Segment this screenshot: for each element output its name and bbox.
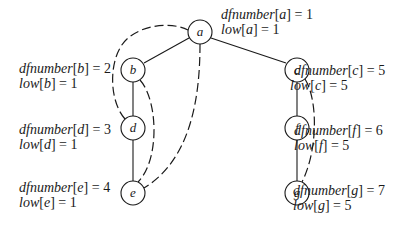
annotation-g: dfnumber[g] = 7 low[g] = 5 [293, 183, 385, 213]
node-d: d [121, 116, 145, 140]
svg-text:e: e [130, 185, 136, 200]
node-e: e [121, 181, 145, 205]
dfnumber-g-line: dfnumber[g] = 7 [293, 183, 385, 198]
svg-text:a: a [197, 24, 204, 39]
tree-edge-a-c [211, 38, 286, 63]
back-edge-e-a [144, 44, 200, 188]
back-edges [113, 25, 315, 188]
nodes: a b c d e f g [121, 20, 309, 205]
low-b-line: low[b] = 1 [19, 76, 111, 91]
low-d-line: low[d] = 1 [19, 137, 111, 152]
svg-text:d: d [130, 120, 137, 135]
annotation-c: dfnumber[c] = 5 low[c] = 5 [294, 63, 385, 93]
annotation-f: dfnumber[f] = 6 low[f] = 5 [294, 123, 383, 153]
annotation-d: dfnumber[d] = 3 low[d] = 1 [19, 122, 111, 152]
low-a-line: low[a] = 1 [221, 22, 313, 37]
tree-edges [133, 38, 297, 181]
dfnumber-b-line: dfnumber[b] = 2 [19, 61, 111, 76]
svg-text:b: b [130, 62, 137, 77]
dfnumber-a-line: dfnumber[a] = 1 [221, 7, 313, 22]
dfnumber-c-line: dfnumber[c] = 5 [294, 63, 385, 78]
low-e-line: low[e] = 1 [19, 195, 110, 210]
node-b: b [121, 58, 145, 82]
tree-edge-a-b [144, 38, 189, 63]
annotation-e: dfnumber[e] = 4 low[e] = 1 [19, 180, 110, 210]
annotation-a: dfnumber[a] = 1 low[a] = 1 [221, 7, 313, 37]
dfnumber-e-line: dfnumber[e] = 4 [19, 180, 110, 195]
annotation-b: dfnumber[b] = 2 low[b] = 1 [19, 61, 111, 91]
low-f-line: low[f] = 5 [294, 138, 383, 153]
dfnumber-d-line: dfnumber[d] = 3 [19, 122, 111, 137]
low-c-line: low[c] = 5 [290, 78, 385, 93]
low-g-line: low[g] = 5 [293, 198, 385, 213]
node-a: a [188, 20, 212, 44]
dfnumber-f-line: dfnumber[f] = 6 [294, 123, 383, 138]
